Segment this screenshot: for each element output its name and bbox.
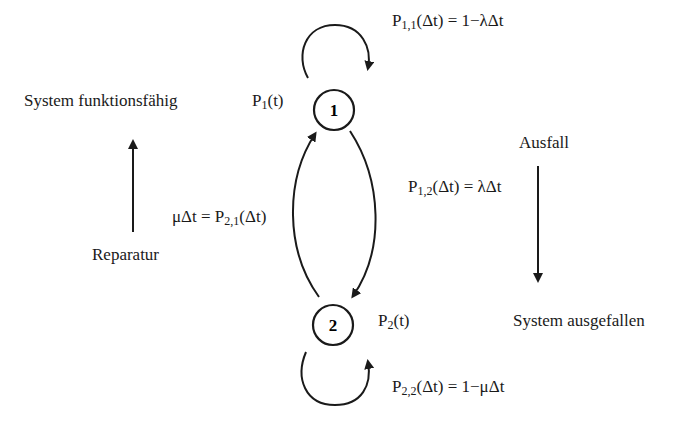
p12-label: P1,2(Δt) = λΔt	[408, 178, 501, 195]
p22-label: P2,2(Δt) = 1−μΔt	[392, 378, 504, 395]
p1-state-label: P1(t)	[252, 92, 284, 109]
p21-label: μΔt = P2,1(Δt)	[172, 208, 266, 225]
node-2-label: 2	[329, 316, 338, 335]
markov-diagram: 1 2	[0, 0, 693, 431]
state-node-1: 1	[314, 90, 354, 130]
transition-2-to-1-arrow	[293, 134, 319, 297]
system-functional-label: System funktionsfähig	[24, 92, 177, 109]
system-failed-label: System ausgefallen	[513, 312, 645, 329]
transition-1-to-2-arrow	[350, 131, 376, 296]
self-loop-1-arrow	[302, 25, 368, 78]
node-1-label: 1	[330, 101, 339, 120]
repair-label: Reparatur	[92, 246, 159, 263]
p2-state-label: P2(t)	[378, 312, 410, 329]
failure-label: Ausfall	[519, 134, 569, 151]
self-loop-2-arrow	[302, 352, 369, 405]
state-node-2: 2	[313, 305, 353, 345]
p11-label: P1,1(Δt) = 1−λΔt	[392, 12, 504, 29]
